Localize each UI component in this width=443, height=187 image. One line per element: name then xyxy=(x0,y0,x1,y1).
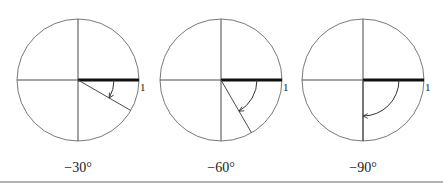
unit-label: 1 xyxy=(425,81,431,93)
clockwise-arrow-icon xyxy=(363,80,399,116)
panel-minus-30: 1 −30° xyxy=(17,19,146,175)
clockwise-arrow-icon xyxy=(239,80,257,111)
terminal-side-ray xyxy=(221,80,252,133)
unit-label: 1 xyxy=(140,81,146,93)
terminal-side-ray xyxy=(78,80,131,111)
panel-minus-90: 1 −90° xyxy=(302,19,431,175)
angle-label: −90° xyxy=(349,160,377,175)
panel-minus-60: 1 −60° xyxy=(160,19,289,175)
clockwise-arrow-icon xyxy=(109,80,114,98)
unit-label: 1 xyxy=(283,81,289,93)
angle-label: −30° xyxy=(64,160,92,175)
unit-circle-angle-diagram: 1 −30° 1 −60° 1 −90° xyxy=(0,0,443,187)
angle-label: −60° xyxy=(207,160,235,175)
